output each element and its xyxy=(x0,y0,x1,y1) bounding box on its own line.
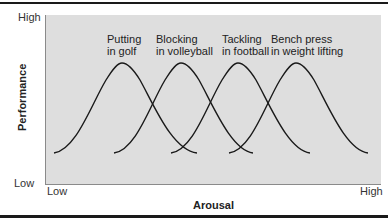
curve-blocking xyxy=(114,63,253,153)
label-blocking: Blocking in volleyball xyxy=(156,33,213,57)
x-axis-title: Arousal xyxy=(193,199,234,211)
y-tick-low: Low xyxy=(14,177,34,189)
label-putting: Putting in golf xyxy=(107,33,141,57)
bottom-rule xyxy=(0,215,388,218)
curve-tackling xyxy=(171,63,310,153)
top-rule xyxy=(0,2,388,4)
curve-bench xyxy=(229,63,368,153)
curve-putting xyxy=(54,63,197,153)
y-axis-title: Performance xyxy=(16,71,28,131)
x-tick-high: High xyxy=(360,185,383,197)
y-tick-high: High xyxy=(18,11,41,23)
label-bench: Bench press in weight lifting xyxy=(271,33,343,57)
x-tick-low: Low xyxy=(47,185,67,197)
label-tackling: Tackling in football xyxy=(222,33,269,57)
plot-area: Putting in golf Blocking in volleyball T… xyxy=(45,15,381,185)
